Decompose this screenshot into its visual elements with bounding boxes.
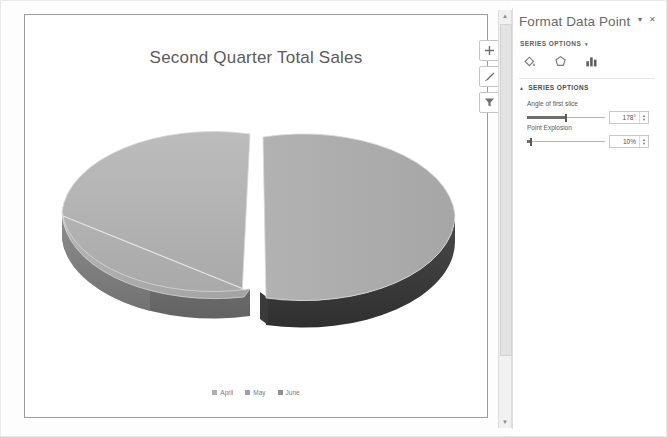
object-selector-dropdown[interactable]: SERIES OPTIONS ▾ xyxy=(520,40,589,47)
legend-item[interactable]: April xyxy=(212,389,233,396)
fill-line-icon[interactable] xyxy=(520,52,538,70)
series-options-icon[interactable] xyxy=(582,52,600,70)
angle-of-first-slice-slider[interactable] xyxy=(527,113,605,123)
chart-elements-button[interactable] xyxy=(479,40,500,61)
stepper-down-icon[interactable]: ▼ xyxy=(642,118,646,122)
chart-filters-button[interactable] xyxy=(479,92,500,113)
point-explosion-label: Point Explosion xyxy=(527,124,655,131)
pane-icon-tabs xyxy=(520,52,600,70)
format-data-point-pane: Format Data Point ▾ ✕ SERIES OPTIONS ▾ xyxy=(512,8,660,429)
point-explosion-control: Point Explosion 10% ▲ ▼ xyxy=(527,124,655,148)
legend-label: May xyxy=(253,389,265,396)
scroll-down-arrow[interactable]: ▼ xyxy=(499,416,511,428)
point-explosion-stepper[interactable]: 10% ▲ ▼ xyxy=(609,135,649,148)
point-explosion-value[interactable]: 10% xyxy=(610,136,639,147)
powerpoint-window: Second Quarter Total Sales xyxy=(0,0,667,437)
plus-icon xyxy=(484,45,495,56)
chart-object[interactable]: Second Quarter Total Sales xyxy=(31,21,481,411)
chevron-down-icon: ▾ xyxy=(585,41,588,47)
stepper-arrows-icon[interactable]: ▲ ▼ xyxy=(639,136,648,147)
collapse-triangle-icon: ▲ xyxy=(519,85,524,91)
pane-close-button[interactable]: ✕ xyxy=(649,16,656,24)
angle-of-first-slice-value[interactable]: 178° xyxy=(610,112,639,123)
slider-knob[interactable] xyxy=(565,114,567,122)
funnel-icon xyxy=(484,97,495,108)
legend-label: June xyxy=(286,389,300,396)
legend-label: April xyxy=(220,389,233,396)
chart-quick-buttons xyxy=(479,40,498,113)
pie-slice-left-group xyxy=(62,132,250,319)
scroll-thumb[interactable] xyxy=(500,24,512,356)
angle-of-first-slice-control: Angle of first slice 178° ▲ ▼ xyxy=(527,100,655,124)
effects-icon[interactable] xyxy=(551,52,569,70)
angle-of-first-slice-label: Angle of first slice xyxy=(527,100,655,107)
legend-swatch-may xyxy=(245,390,250,395)
pie-slice-exploded-april xyxy=(260,134,455,328)
stepper-down-icon[interactable]: ▼ xyxy=(642,142,646,146)
legend-swatch-june xyxy=(278,390,283,395)
scroll-up-arrow[interactable]: ▲ xyxy=(499,10,511,22)
chart-styles-button[interactable] xyxy=(479,66,500,87)
legend-swatch-april xyxy=(212,390,217,395)
slider-track xyxy=(527,141,605,142)
pane-header: Format Data Point ▾ ✕ xyxy=(513,8,660,38)
slider-fill xyxy=(527,116,565,119)
legend-item[interactable]: June xyxy=(278,389,300,396)
angle-of-first-slice-stepper[interactable]: 178° ▲ ▼ xyxy=(609,111,649,124)
slider-knob[interactable] xyxy=(530,138,532,146)
pie-chart-graphic[interactable] xyxy=(54,84,464,359)
chart-title: Second Quarter Total Sales xyxy=(32,48,480,68)
legend-item[interactable]: May xyxy=(245,389,265,396)
stepper-arrows-icon[interactable]: ▲ ▼ xyxy=(639,112,648,123)
pane-options-button[interactable]: ▾ xyxy=(638,16,642,24)
slide-canvas[interactable]: Second Quarter Total Sales xyxy=(24,14,488,418)
series-options-section-header[interactable]: ▲ SERIES OPTIONS xyxy=(519,84,589,91)
pane-title: Format Data Point xyxy=(519,14,630,29)
slide-vertical-scrollbar[interactable]: ▲ ▼ xyxy=(498,10,512,428)
pane-divider xyxy=(519,78,654,79)
brush-icon xyxy=(484,71,495,82)
pane-header-buttons: ▾ ✕ xyxy=(638,16,656,24)
chart-legend[interactable]: April May June xyxy=(32,389,480,396)
point-explosion-slider[interactable] xyxy=(527,137,605,147)
section-title: SERIES OPTIONS xyxy=(528,84,589,91)
object-selector-label: SERIES OPTIONS xyxy=(520,40,581,47)
slide-pane: Second Quarter Total Sales xyxy=(0,0,510,437)
